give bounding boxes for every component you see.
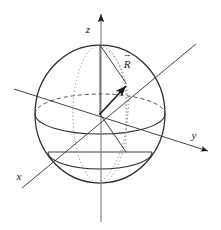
lower-latitude-arc — [48, 152, 152, 169]
x-axis-label: x — [16, 170, 22, 182]
position-vector-R — [100, 86, 126, 114]
sphere-diagram-canvas: z y x → R — [0, 0, 221, 230]
z-axis-label: z — [85, 23, 91, 35]
vector-label: R — [123, 58, 131, 70]
origin-point — [99, 113, 101, 115]
x-axis-line — [22, 44, 196, 188]
vector-label-group: → R — [123, 49, 132, 70]
y-axis-line — [14, 89, 208, 151]
sphere-diagram-figure: z y x → R — [0, 0, 221, 230]
y-axis-label: y — [191, 129, 197, 141]
